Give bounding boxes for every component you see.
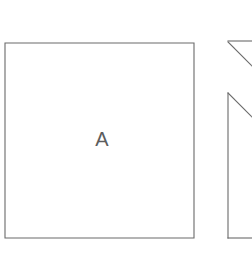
drawing-canvas: A <box>0 0 252 254</box>
figure-svg: A <box>0 0 252 254</box>
shape-label-a: A <box>95 128 109 150</box>
shape-square-a: A <box>5 43 194 238</box>
